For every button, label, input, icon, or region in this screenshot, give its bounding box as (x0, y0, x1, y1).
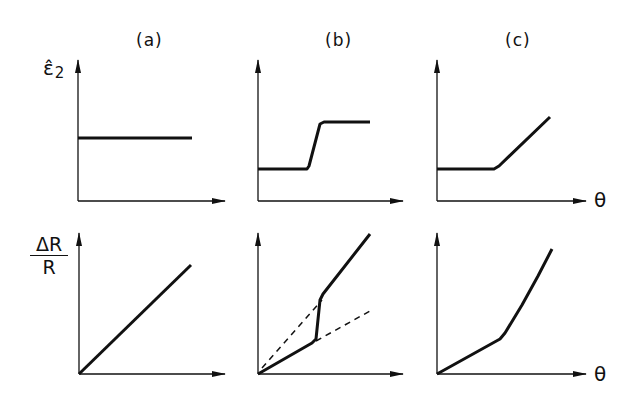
panel-c-top-curve (437, 117, 550, 169)
panel-b-bottom-curve (258, 234, 370, 374)
panel-c-bottom-axes (437, 233, 586, 374)
panel-b-top-axes (258, 60, 403, 201)
panel-a-bottom-curve (79, 265, 191, 374)
panel-c-bottom-curve (437, 249, 552, 374)
panel-b-bottom-axes (258, 233, 403, 374)
panel-a-top-axes (78, 60, 225, 201)
panel-c-top-axes (437, 60, 586, 201)
diagram-canvas (0, 0, 640, 398)
panel-b-dashed-extrapolation-steep (262, 300, 322, 368)
panel-b-dashed-extension-shallow (316, 311, 370, 341)
panel-b-top-curve (258, 122, 370, 169)
